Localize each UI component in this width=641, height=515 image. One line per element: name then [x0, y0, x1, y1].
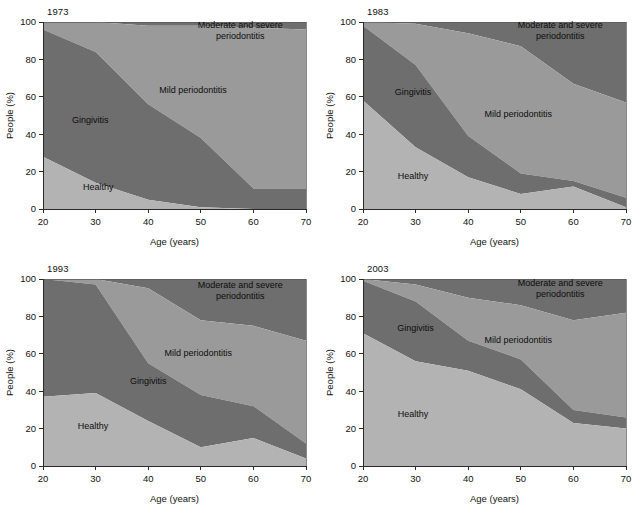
x-tick-label: 70: [621, 216, 632, 227]
y-tick-label: 80: [345, 54, 356, 65]
area-label-gingivitis: Gingivitis: [397, 323, 434, 333]
stacked-area-plot: 020406080100203040506070Age (years)Peopl…: [320, 257, 640, 514]
x-tick-label: 40: [463, 473, 474, 484]
y-tick-label: 60: [345, 348, 356, 359]
panel-title: 1993: [47, 263, 69, 274]
y-tick-label: 100: [340, 16, 356, 27]
y-axis-title: People (%): [4, 349, 15, 396]
chart-panel-1973: 1973020406080100203040506070Age (years)P…: [0, 0, 320, 257]
area-label-gingivitis: Gingivitis: [395, 87, 432, 97]
y-tick-label: 100: [20, 16, 36, 27]
x-tick-label: 60: [248, 216, 259, 227]
chart-panel-1983: 1983020406080100203040506070Age (years)P…: [320, 0, 641, 257]
y-tick-label: 80: [25, 311, 36, 322]
y-tick-label: 40: [25, 129, 36, 140]
chart-panel-1993: 1993020406080100203040506070Age (years)P…: [0, 257, 320, 515]
y-tick-label: 60: [25, 348, 36, 359]
x-tick-label: 50: [516, 216, 527, 227]
x-tick-label: 70: [301, 473, 312, 484]
chart-panel-2003: 2003020406080100203040506070Age (years)P…: [320, 257, 641, 515]
x-tick-label: 70: [621, 473, 632, 484]
y-axis-title: People (%): [324, 349, 335, 396]
area-label-mild-periodontitis: Mild periodontitis: [484, 335, 552, 345]
area-label-mild-periodontitis: Mild periodontitis: [159, 85, 227, 95]
x-axis-title: Age (years): [470, 236, 519, 247]
x-axis-title: Age (years): [150, 493, 199, 504]
area-label-mild-periodontitis: Mild periodontitis: [164, 348, 232, 358]
y-tick-label: 0: [31, 203, 36, 214]
stacked-area-plot: 020406080100203040506070Age (years)Peopl…: [0, 0, 320, 257]
area-label-gingivitis: Gingivitis: [130, 376, 167, 386]
stacked-area-plot: 020406080100203040506070Age (years)Peopl…: [320, 0, 640, 257]
x-tick-label: 30: [90, 473, 101, 484]
figure-grid: 1973020406080100203040506070Age (years)P…: [0, 0, 641, 515]
area-label-mild-periodontitis: Mild periodontitis: [484, 109, 552, 119]
panel-title: 1973: [47, 6, 69, 17]
y-tick-label: 100: [20, 273, 36, 284]
y-axis-title: People (%): [324, 92, 335, 139]
y-tick-label: 40: [345, 386, 356, 397]
x-tick-label: 20: [358, 473, 369, 484]
area-label-healthy: Healthy: [398, 171, 429, 181]
panel-title: 2003: [367, 263, 389, 274]
x-tick-label: 60: [568, 216, 579, 227]
x-tick-label: 30: [410, 216, 421, 227]
x-axis-title: Age (years): [150, 236, 199, 247]
area-label-healthy: Healthy: [78, 421, 109, 431]
x-tick-label: 40: [143, 473, 154, 484]
x-tick-label: 40: [143, 216, 154, 227]
x-axis-title: Age (years): [470, 493, 519, 504]
x-tick-label: 50: [196, 473, 207, 484]
y-tick-label: 80: [25, 54, 36, 65]
y-tick-label: 40: [345, 129, 356, 140]
x-tick-label: 50: [196, 216, 207, 227]
y-axis-title: People (%): [4, 92, 15, 139]
x-tick-label: 60: [568, 473, 579, 484]
area-label-gingivitis: Gingivitis: [72, 115, 109, 125]
x-tick-label: 60: [248, 473, 259, 484]
panel-title: 1983: [367, 6, 389, 17]
y-tick-label: 0: [31, 460, 36, 471]
y-tick-label: 80: [345, 311, 356, 322]
y-tick-label: 20: [345, 166, 356, 177]
area-label-healthy: Healthy: [83, 182, 114, 192]
x-tick-label: 50: [516, 473, 527, 484]
x-tick-label: 20: [38, 216, 49, 227]
y-tick-label: 20: [25, 423, 36, 434]
x-tick-label: 70: [301, 216, 312, 227]
y-tick-label: 20: [345, 423, 356, 434]
x-tick-label: 30: [410, 473, 421, 484]
x-tick-label: 20: [358, 216, 369, 227]
x-tick-label: 20: [38, 473, 49, 484]
x-tick-label: 30: [90, 216, 101, 227]
area-label-healthy: Healthy: [398, 409, 429, 419]
x-tick-label: 40: [463, 216, 474, 227]
y-tick-label: 60: [345, 91, 356, 102]
y-tick-label: 40: [25, 386, 36, 397]
y-tick-label: 100: [340, 273, 356, 284]
stacked-area-plot: 020406080100203040506070Age (years)Peopl…: [0, 257, 320, 514]
y-tick-label: 60: [25, 91, 36, 102]
y-tick-label: 0: [351, 203, 356, 214]
figure-footer: [0, 509, 641, 515]
y-tick-label: 0: [351, 460, 356, 471]
y-tick-label: 20: [25, 166, 36, 177]
